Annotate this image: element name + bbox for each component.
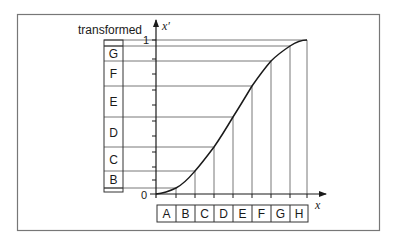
y-bin-d: D (109, 126, 118, 140)
transfer-function-diagram: G F E D C B (0, 0, 393, 244)
x-bin-h: H (295, 207, 304, 221)
y-bin-g: G (109, 47, 118, 61)
x-bin-c: C (200, 207, 209, 221)
y-bin-column (104, 40, 123, 192)
x-bin-b: B (181, 207, 189, 221)
horizontal-gridlines (104, 40, 307, 188)
y-axis-label: transformed (78, 23, 142, 37)
x-bin-d: D (219, 207, 228, 221)
origin-label: 0 (141, 189, 147, 201)
y-bin-e: E (109, 95, 117, 109)
x-bin-a: A (162, 207, 170, 221)
x-bin-row (157, 205, 308, 222)
x-bin-e: E (238, 207, 246, 221)
y-bin-f: F (110, 67, 117, 81)
y-tick-one: 1 (143, 34, 149, 46)
y-bin-b: B (109, 173, 117, 187)
outer-frame (18, 15, 380, 231)
y-bin-c: C (109, 153, 118, 167)
x-bin-g: G (276, 207, 285, 221)
x-axis-symbol: x (314, 198, 321, 212)
x-bin-f: F (258, 207, 265, 221)
y-axis-symbol: x′ (161, 19, 170, 33)
